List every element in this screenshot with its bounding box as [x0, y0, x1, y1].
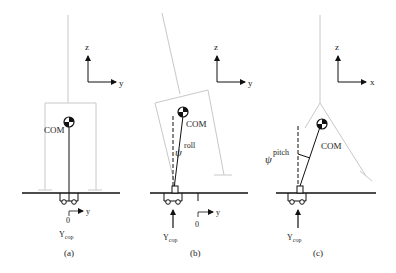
axis-label-y: y — [248, 78, 253, 88]
com-label-c: COM — [321, 141, 342, 151]
origin-axis-a: y 0 — [66, 207, 90, 225]
axes-c: z x — [335, 42, 375, 87]
ycop-label-c: Ycop — [287, 233, 301, 243]
joint-block-c — [297, 186, 303, 193]
axes-a: z y — [85, 42, 124, 88]
axis-label-z: z — [335, 42, 339, 52]
pitch-angle-label: pitch — [273, 148, 289, 157]
panel-b: z y COM ψ roll y 0 Ycop (b) — [150, 13, 253, 258]
com-marker-c — [317, 119, 327, 129]
com-label-b: COM — [186, 119, 207, 129]
ycop-label-b: Ycop — [163, 233, 177, 243]
body-outline-b — [155, 13, 232, 185]
cart-b — [164, 193, 182, 204]
origin-label-a: 0 — [66, 216, 70, 225]
body-outline-a — [38, 15, 102, 190]
com-label-a: COM — [44, 125, 65, 135]
origin-axis-label-b: y — [216, 208, 220, 217]
caption-c: (c) — [313, 248, 323, 258]
axis-label-x: x — [370, 77, 375, 87]
caption-a: (a) — [64, 248, 74, 258]
origin-label-b: 0 — [195, 220, 199, 229]
axis-label-z: z — [214, 42, 218, 52]
roll-angle-label: roll — [184, 141, 196, 150]
com-marker-a — [64, 117, 74, 127]
axes-b: z y — [214, 42, 253, 88]
axis-label-z: z — [85, 42, 89, 52]
origin-axis-b: y 0 — [195, 208, 220, 229]
panel-c: z x COM ψ pitch Ycop (c) — [265, 15, 376, 258]
cart-c — [288, 193, 306, 204]
pitch-angle-symbol: ψ — [265, 153, 272, 165]
body-outline-c — [305, 15, 372, 181]
pitch-arc-c — [298, 154, 310, 158]
origin-axis-label-a: y — [86, 207, 90, 216]
ycop-label-a: Ycop — [59, 230, 73, 240]
panel-a: z y COM y 0 Ycop (a) — [22, 15, 124, 258]
axis-label-y: y — [119, 78, 124, 88]
roll-angle-symbol: ψ — [175, 146, 182, 158]
figure-canvas: z y COM y 0 Ycop (a) — [0, 0, 396, 273]
com-marker-b — [178, 107, 188, 117]
joint-block-b — [172, 186, 178, 193]
caption-b: (b) — [190, 248, 201, 258]
